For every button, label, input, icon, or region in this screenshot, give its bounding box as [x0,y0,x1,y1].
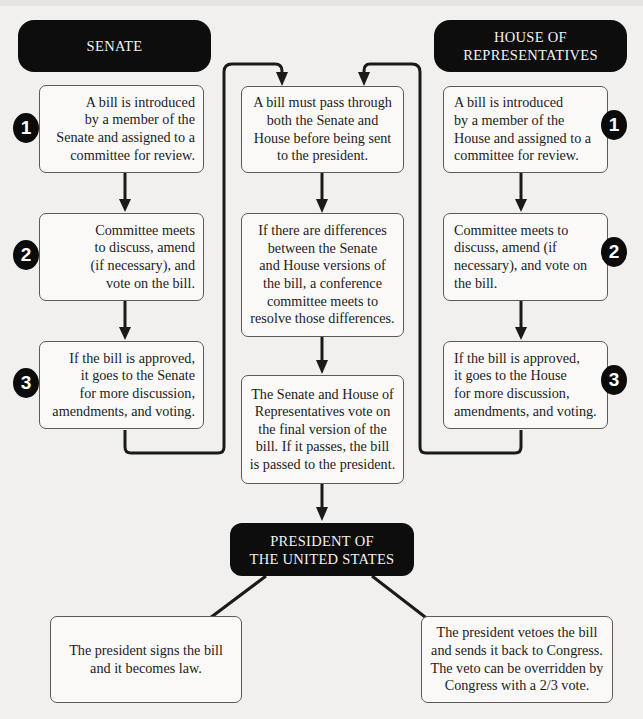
center-step-2-text: If there are differences between the Sen… [250,222,394,328]
senate-step-3-box: If the bill is approved, it goes to the … [39,341,204,429]
senate-header: SENATE [18,20,211,72]
center-step-3-box: The Senate and House of Representatives … [241,375,404,484]
house-step-3-text: If the bill is approved, it goes to the … [454,350,597,420]
center-step-1-box: A bill must pass through both the Senate… [241,86,404,173]
senate-step-2-text: Committee meets to discuss, amend (if ne… [91,222,195,292]
senate-step-1-number-badge: 1 [13,113,39,143]
senate-step-3-number-badge: 3 [13,368,39,398]
house-step-1-box: A bill is introduced by a member of the … [443,86,608,173]
house-header: HOUSE OF REPRESENTATIVES [434,20,627,72]
house-step-2-text: Committee meets to discuss, amend (if ne… [454,222,587,292]
house-step-3-number-badge: 3 [601,365,627,395]
house-step-2-box: Committee meets to discuss, amend (if ne… [443,213,608,301]
senate-step-2-box: Committee meets to discuss, amend (if ne… [39,213,204,301]
outcome-signs-text: The president signs the bill and it beco… [69,642,223,677]
house-step-2-number-badge: 2 [601,237,627,267]
center-step-3-text: The Senate and House of Representatives … [250,386,395,474]
house-step-3-box: If the bill is approved, it goes to the … [443,341,608,429]
senate-step-1-text: A bill is introduced by a member of the … [56,94,195,164]
center-step-2-box: If there are differences between the Sen… [241,213,404,337]
outcome-veto-text: The president vetoes the bill and sends … [431,624,604,694]
senate-step-2-number-badge: 2 [13,240,39,270]
senate-step-3-text: If the bill is approved, it goes to the … [52,350,195,420]
center-step-1-text: A bill must pass through both the Senate… [253,94,392,164]
senate-step-1-box: A bill is introduced by a member of the … [39,85,204,173]
outcome-veto-box: The president vetoes the bill and sends … [421,616,613,703]
outcome-signs-box: The president signs the bill and it beco… [50,616,242,703]
president-header: PRESIDENT OF THE UNITED STATES [230,523,414,576]
president-header-label: PRESIDENT OF THE UNITED STATES [250,532,395,568]
house-step-1-text: A bill is introduced by a member of the … [454,94,591,164]
senate-header-label: SENATE [87,37,143,55]
house-step-1-number-badge: 1 [601,110,627,140]
house-header-label: HOUSE OF REPRESENTATIVES [463,28,598,64]
